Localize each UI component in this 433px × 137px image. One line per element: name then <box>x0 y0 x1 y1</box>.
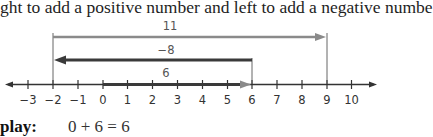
axis-tick-labels: −3 −2 −1 0 1 2 3 4 5 6 7 8 9 10 <box>20 93 359 107</box>
tick-label: 0 <box>99 93 106 107</box>
arrow-label-11: 11 <box>163 19 178 33</box>
tick-label: 5 <box>224 93 231 107</box>
tick-label: 9 <box>323 93 330 107</box>
axis-right-arrowhead-icon <box>369 82 377 88</box>
tick-label: 7 <box>273 93 280 107</box>
axis-left-arrowhead-icon <box>5 82 13 88</box>
tick-label: 8 <box>298 93 305 107</box>
arrow-minus-8: −8 <box>54 43 252 65</box>
arrowhead-right-icon <box>315 33 326 41</box>
arrowhead-right-icon <box>240 81 251 89</box>
tick-label: −2 <box>45 93 62 107</box>
arrowhead-left-icon <box>54 56 66 65</box>
arrow-plus-11: 11 <box>53 19 326 41</box>
tick-label: 6 <box>248 93 255 107</box>
tick-label: −3 <box>20 93 37 107</box>
tick-label: 2 <box>149 93 156 107</box>
tick-label: 10 <box>344 93 359 107</box>
tick-label: 1 <box>124 93 131 107</box>
display-label: play: <box>0 117 37 136</box>
tick-label: 4 <box>199 93 206 107</box>
arrow-plus-6: 6 <box>103 66 251 89</box>
arrow-label-6: 6 <box>162 66 169 80</box>
tick-label: 3 <box>174 93 181 107</box>
display-row: play: 0 + 6 = 6 <box>0 117 37 137</box>
tick-label: −1 <box>70 93 87 107</box>
display-equation: 0 + 6 = 6 <box>68 117 130 137</box>
arrow-label-minus-8: −8 <box>158 43 175 57</box>
